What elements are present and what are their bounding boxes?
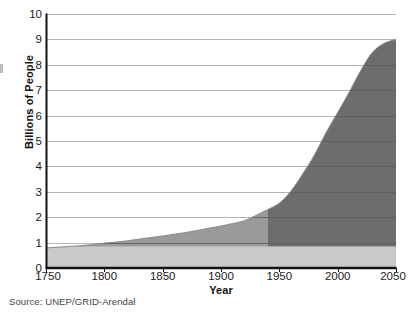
source-note: Source: UNEP/GRID-Arendal: [9, 296, 136, 307]
area-fill-light: [46, 246, 396, 268]
population-chart-figure: Billions of People Year 10 9 8 7 6 5 4 3…: [0, 0, 416, 316]
plot-area: [0, 0, 416, 316]
